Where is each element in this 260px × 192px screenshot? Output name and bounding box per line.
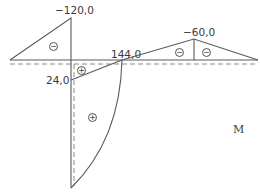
- label-support-value: 24,0: [46, 75, 69, 86]
- label-right-peak: −60,0: [183, 27, 215, 38]
- negative-sign-icon: −: [175, 48, 184, 57]
- negative-sign-icon: −: [202, 48, 211, 57]
- positive-sign-icon: +: [88, 113, 97, 122]
- moment-diagram: [0, 0, 260, 192]
- parabolic-curve: [71, 60, 122, 188]
- negative-sign-icon: −: [49, 42, 58, 51]
- label-zero-crossing: 144,0: [111, 49, 141, 60]
- diagram-title: M: [233, 124, 244, 135]
- left-negative-triangle: [10, 18, 71, 188]
- label-left-peak: −120,0: [55, 5, 94, 16]
- right-negative-triangle: [122, 39, 258, 60]
- positive-sign-icon: +: [77, 66, 86, 75]
